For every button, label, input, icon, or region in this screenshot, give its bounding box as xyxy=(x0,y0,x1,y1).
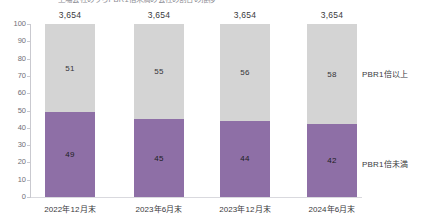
y-axis-tick xyxy=(27,59,31,60)
bar-segment-value: 56 xyxy=(240,68,249,77)
bar-group[interactable]: 3,65451492022年12月末 xyxy=(45,24,95,197)
bar-segment-value: 44 xyxy=(240,154,249,163)
y-axis-tick-label: 70 xyxy=(0,72,26,80)
x-axis-category-label: 2024年6月末 xyxy=(285,205,379,215)
y-axis-tick xyxy=(27,76,31,77)
bar-segment-pbr-above-1[interactable]: 58 xyxy=(307,24,357,124)
y-axis-tick xyxy=(27,145,31,146)
y-axis-tick xyxy=(27,41,31,42)
bar-total-label: 3,654 xyxy=(206,10,284,20)
legend-label-pbr-above-1: PBR1倍以上 xyxy=(362,70,408,80)
y-axis-tick xyxy=(27,93,31,94)
bar-group[interactable]: 3,65455452023年6月末 xyxy=(134,24,184,197)
bar-group[interactable]: 3,65456442023年12月末 xyxy=(220,24,270,197)
y-axis-tick-label: 30 xyxy=(0,141,26,149)
bar-segment-pbr-below-1[interactable]: 49 xyxy=(45,112,95,197)
bar-stack: 5545 xyxy=(134,24,184,197)
y-axis-tick-label: 40 xyxy=(0,124,26,132)
legend-label-pbr-below-1: PBR1倍未満 xyxy=(362,160,408,170)
y-axis-tick-label: 90 xyxy=(0,37,26,45)
bar-group[interactable]: 3,65458422024年6月末 xyxy=(307,24,357,197)
y-axis-tick-label: 10 xyxy=(0,176,26,184)
stacked-bar-chart: 上場会社のうちPBR1倍未満の会社の割合の推移 1009080706050403… xyxy=(0,0,424,224)
bar-segment-value: 51 xyxy=(65,64,74,73)
y-axis-tick xyxy=(27,180,31,181)
bar-segment-value: 49 xyxy=(65,150,74,159)
y-axis-tick-label: 100 xyxy=(0,20,26,28)
y-axis-tick xyxy=(27,128,31,129)
bar-segment-pbr-above-1[interactable]: 51 xyxy=(45,24,95,112)
bar-segment-value: 45 xyxy=(154,154,163,163)
plot-area: 1009080706050403020100 3,65451492022年12月… xyxy=(0,0,424,224)
y-axis-tick-label: 50 xyxy=(0,107,26,115)
y-axis-tick xyxy=(27,197,31,198)
bar-segment-pbr-below-1[interactable]: 44 xyxy=(220,121,270,197)
y-axis-tick xyxy=(27,111,31,112)
bar-segment-value: 55 xyxy=(154,67,163,76)
y-axis-tick xyxy=(27,24,31,25)
bar-total-label: 3,654 xyxy=(120,10,198,20)
bar-stack: 5644 xyxy=(220,24,270,197)
bar-segment-pbr-above-1[interactable]: 55 xyxy=(134,24,184,119)
bar-segment-value: 58 xyxy=(327,70,336,79)
bar-segment-pbr-below-1[interactable]: 45 xyxy=(134,119,184,197)
x-axis-category-label: 2023年6月末 xyxy=(112,205,206,215)
bar-total-label: 3,654 xyxy=(31,10,109,20)
bar-segment-pbr-above-1[interactable]: 56 xyxy=(220,24,270,121)
y-axis-tick xyxy=(27,162,31,163)
bar-segment-pbr-below-1[interactable]: 42 xyxy=(307,124,357,197)
x-axis-baseline xyxy=(30,197,362,198)
x-axis-category-label: 2022年12月末 xyxy=(23,205,117,215)
bar-stack: 5149 xyxy=(45,24,95,197)
y-axis-tick-label: 0 xyxy=(0,193,26,201)
bar-total-label: 3,654 xyxy=(293,10,371,20)
bar-stack: 5842 xyxy=(307,24,357,197)
bar-segment-value: 42 xyxy=(327,156,336,165)
x-axis-category-label: 2023年12月末 xyxy=(198,205,292,215)
y-axis-tick-label: 80 xyxy=(0,55,26,63)
y-axis-tick-label: 60 xyxy=(0,89,26,97)
y-axis-tick-label: 20 xyxy=(0,158,26,166)
